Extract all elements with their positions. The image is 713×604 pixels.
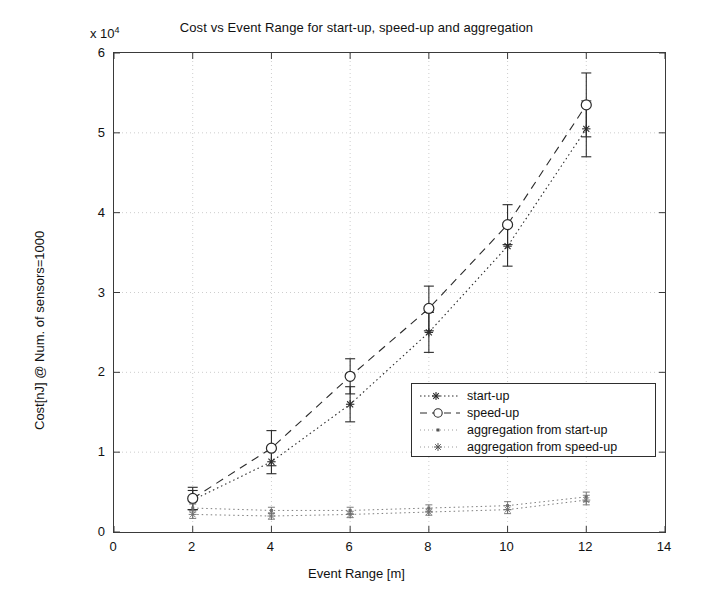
legend-marker-asterisk-icon: [418, 439, 462, 455]
legend-marker-dot-icon: [418, 422, 462, 438]
y-tick-label: 6: [81, 45, 105, 60]
legend-item-speed-up: speed-up: [412, 404, 655, 421]
legend-label: speed-up: [467, 405, 519, 421]
y-tick-label: 2: [81, 364, 105, 379]
plot-canvas: [114, 53, 665, 532]
y-tick-label: 0: [81, 524, 105, 539]
figure: x 104 Cost vs Event Range for start-up, …: [0, 0, 713, 604]
y-tick-label: 5: [81, 124, 105, 139]
y-axis-label: Cost[nJ] @ Num. of sensors=1000: [32, 231, 47, 430]
legend-marker-star-icon: [418, 388, 462, 404]
legend-item-aggregation-from-start-up: aggregation from start-up: [412, 421, 655, 438]
chart-title: Cost vs Event Range for start-up, speed-…: [0, 20, 713, 35]
legend: start-up speed-up aggregation from start…: [411, 383, 656, 457]
y-tick-label: 1: [81, 444, 105, 459]
legend-item-start-up: start-up: [412, 387, 655, 404]
legend-label: aggregation from speed-up: [467, 439, 617, 455]
x-tick-label: 0: [98, 539, 128, 554]
legend-item-aggregation-from-speed-up: aggregation from speed-up: [412, 438, 655, 455]
legend-label: aggregation from start-up: [467, 422, 607, 438]
plot-area: [113, 52, 666, 533]
x-tick-label: 6: [334, 539, 364, 554]
legend-marker-circle-icon: [418, 405, 462, 421]
y-tick-label: 4: [81, 204, 105, 219]
x-tick-label: 12: [570, 539, 600, 554]
x-tick-label: 2: [177, 539, 207, 554]
x-tick-label: 4: [255, 539, 285, 554]
y-tick-label: 3: [81, 284, 105, 299]
x-tick-label: 10: [492, 539, 522, 554]
legend-label: start-up: [467, 388, 509, 404]
x-axis-label: Event Range [m]: [0, 566, 713, 581]
x-tick-label: 14: [649, 539, 679, 554]
x-tick-label: 8: [413, 539, 443, 554]
